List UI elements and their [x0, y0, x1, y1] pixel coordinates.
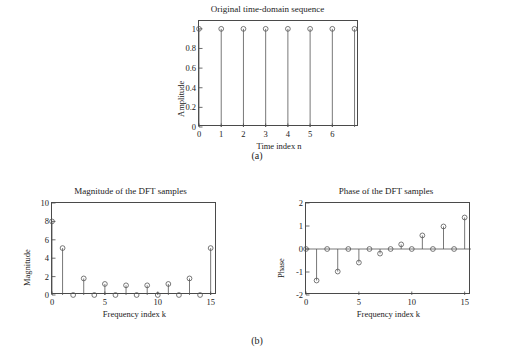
- chart-a-axes: [198, 20, 358, 126]
- svg-text:1: 1: [219, 129, 223, 139]
- svg-text:0: 0: [304, 297, 308, 307]
- svg-text:15: 15: [206, 297, 215, 307]
- svg-text:2: 2: [45, 272, 49, 282]
- svg-text:2: 2: [241, 129, 245, 139]
- svg-text:2: 2: [299, 198, 303, 208]
- chart-a-canvas: [199, 21, 359, 127]
- figure-page: { "page": { "background": "#ffffff", "li…: [0, 0, 513, 362]
- sublabel-a: (a): [237, 150, 277, 161]
- chart-panel-phase: Phase of the DFT samples Phase 051015-2-…: [272, 186, 500, 326]
- sublabel-b: (b): [237, 335, 277, 346]
- svg-text:0.2: 0.2: [185, 102, 196, 112]
- svg-text:6: 6: [330, 129, 334, 139]
- chart-panel-magnitude: Magnitude of the DFT samples Magnitude 0…: [18, 186, 243, 326]
- svg-text:3: 3: [264, 129, 268, 139]
- svg-text:15: 15: [460, 297, 469, 307]
- chart-phase-ylabel: Phase: [276, 258, 286, 278]
- svg-text:0.6: 0.6: [185, 63, 196, 73]
- chart-phase-canvas: [306, 203, 471, 295]
- chart-magnitude-ylabel: Magnitude: [22, 249, 32, 286]
- svg-text:0: 0: [45, 290, 49, 300]
- svg-text:-2: -2: [296, 290, 303, 300]
- svg-text:6: 6: [45, 235, 49, 245]
- svg-text:0.8: 0.8: [185, 43, 196, 53]
- svg-text:0: 0: [299, 244, 303, 254]
- svg-text:1: 1: [192, 24, 196, 34]
- svg-text:4: 4: [286, 129, 291, 139]
- svg-text:0: 0: [197, 129, 201, 139]
- chart-a-title: Original time-domain sequence: [170, 4, 365, 14]
- svg-text:0: 0: [192, 122, 196, 132]
- svg-text:0: 0: [50, 297, 54, 307]
- svg-text:-1: -1: [296, 267, 303, 277]
- svg-text:1: 1: [299, 221, 303, 231]
- svg-text:5: 5: [103, 297, 107, 307]
- svg-text:10: 10: [408, 297, 417, 307]
- svg-text:Frequency index k: Frequency index k: [103, 309, 167, 319]
- svg-text:5: 5: [357, 297, 361, 307]
- chart-magnitude-title: Magnitude of the DFT samples: [18, 186, 243, 196]
- svg-text:Frequency index k: Frequency index k: [357, 309, 421, 319]
- svg-text:10: 10: [41, 198, 50, 208]
- svg-text:10: 10: [154, 297, 163, 307]
- svg-text:0.4: 0.4: [185, 83, 196, 93]
- svg-text:5: 5: [308, 129, 312, 139]
- chart-magnitude-canvas: [52, 203, 217, 295]
- chart-phase-title: Phase of the DFT samples: [272, 186, 500, 196]
- svg-text:8: 8: [45, 216, 49, 226]
- chart-phase-axes: [305, 202, 470, 294]
- chart-a-ylabel: Amplitude: [176, 81, 186, 117]
- chart-panel-a: Original time-domain sequence Amplitude …: [170, 4, 365, 149]
- chart-magnitude-axes: [51, 202, 216, 294]
- svg-text:4: 4: [45, 253, 50, 263]
